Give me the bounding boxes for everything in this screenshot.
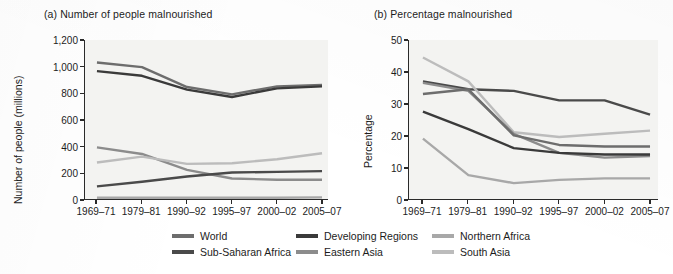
y-axis-tick-mark — [80, 93, 84, 94]
x-axis-tick-label: 1969–71 — [77, 206, 116, 217]
x-axis-tick-mark — [231, 200, 232, 204]
y-axis-tick-label: 600 — [44, 115, 78, 126]
x-axis-tick-label: 2000–02 — [257, 206, 296, 217]
y-axis-tick-label: 0 — [44, 195, 78, 206]
x-axis-tick-mark — [558, 200, 559, 204]
y-axis-tick-label: 1,200 — [44, 35, 78, 46]
x-axis-tick-mark — [467, 200, 468, 204]
y-axis-tick-label: 0 — [368, 195, 402, 206]
y-axis-tick-label: 40 — [368, 67, 402, 78]
legend-line-swatch-icon — [172, 234, 194, 237]
series-line-world — [97, 63, 322, 95]
y-axis-tick-mark — [80, 146, 84, 147]
legend-line-swatch-icon — [296, 250, 318, 253]
legend-label: South Asia — [460, 246, 510, 258]
panel-a-y-axis-label: Number of people (millions) — [12, 76, 24, 204]
panel-b-title: (b) Percentage malnourished — [374, 8, 512, 20]
y-axis-tick-label: 50 — [368, 35, 402, 46]
y-axis-tick-label: 10 — [368, 163, 402, 174]
x-axis-tick-label: 1990–92 — [167, 206, 206, 217]
x-axis-tick-label: 1990–92 — [494, 206, 533, 217]
legend-item-eastern-asia: Eastern Asia — [296, 246, 383, 258]
x-axis-tick-label: 1969–71 — [403, 206, 442, 217]
legend-item-developing-regions: Developing Regions — [296, 230, 418, 242]
legend-row-bottom: Sub-Saharan Africa Eastern Asia South As… — [0, 246, 673, 262]
series-line-northern-africa — [423, 139, 650, 184]
x-axis-tick-mark — [95, 200, 96, 204]
malnutrition-figure: (a) Number of people malnourished Number… — [0, 0, 673, 274]
x-axis-tick-label: 1979–81 — [122, 206, 161, 217]
legend-label: Developing Regions — [324, 230, 418, 242]
x-axis-tick-mark — [604, 200, 605, 204]
y-axis-tick-mark — [404, 199, 408, 200]
x-axis-tick-label: 2005–07 — [631, 206, 670, 217]
panel-a-plot-area — [84, 40, 328, 200]
figure-legend: World Developing Regions Northern Africa… — [0, 228, 673, 274]
y-axis-tick-mark — [80, 119, 84, 120]
x-axis-tick-mark — [276, 200, 277, 204]
legend-item-northern-africa: Northern Africa — [432, 230, 530, 242]
x-axis-tick-mark — [513, 200, 514, 204]
y-axis-tick-mark — [80, 173, 84, 174]
panel-b-plot-area — [408, 40, 658, 200]
legend-item-sub-saharan-africa: Sub-Saharan Africa — [172, 246, 291, 258]
x-axis-tick-mark — [186, 200, 187, 204]
y-axis-tick-mark — [80, 199, 84, 200]
y-axis-tick-label: 30 — [368, 99, 402, 110]
legend-item-south-asia: South Asia — [432, 246, 510, 258]
x-axis-tick-mark — [421, 200, 422, 204]
legend-label: World — [200, 230, 227, 242]
legend-label: Northern Africa — [460, 230, 530, 242]
y-axis-tick-label: 400 — [44, 141, 78, 152]
y-axis-tick-label: 20 — [368, 131, 402, 142]
x-axis-tick-mark — [321, 200, 322, 204]
x-axis-tick-mark — [649, 200, 650, 204]
series-line-sub-saharan-africa — [423, 81, 650, 114]
series-line-world — [423, 89, 650, 146]
legend-line-swatch-icon — [296, 234, 318, 237]
x-axis-tick-label: 1995–97 — [539, 206, 578, 217]
panel-a-series-lines — [85, 40, 328, 199]
chart-panel-a: (a) Number of people malnourished Number… — [0, 0, 336, 232]
y-axis-tick-label: 800 — [44, 88, 78, 99]
legend-row-top: World Developing Regions Northern Africa — [0, 230, 673, 246]
y-axis-tick-mark — [80, 66, 84, 67]
y-axis-tick-mark — [404, 39, 408, 40]
y-axis-tick-mark — [404, 167, 408, 168]
legend-line-swatch-icon — [432, 234, 454, 237]
y-axis-tick-mark — [404, 71, 408, 72]
y-axis-tick-label: 200 — [44, 168, 78, 179]
panel-a-title: (a) Number of people malnourished — [44, 8, 212, 20]
x-axis-tick-mark — [141, 200, 142, 204]
legend-label: Eastern Asia — [324, 246, 383, 258]
x-axis-tick-label: 1979–81 — [448, 206, 487, 217]
series-line-developing-regions — [97, 71, 322, 97]
legend-line-swatch-icon — [172, 250, 194, 253]
series-line-south-asia — [97, 153, 322, 164]
y-axis-tick-mark — [404, 103, 408, 104]
legend-item-world: World — [172, 230, 227, 242]
legend-line-swatch-icon — [432, 250, 454, 253]
chart-panel-b: (b) Percentage malnourished Percentage 0… — [336, 0, 673, 232]
panel-b-series-lines — [409, 40, 658, 199]
x-axis-tick-label: 1995–97 — [212, 206, 251, 217]
x-axis-tick-label: 2000–02 — [585, 206, 624, 217]
y-axis-tick-label: 1,000 — [44, 61, 78, 72]
y-axis-tick-mark — [404, 135, 408, 136]
legend-label: Sub-Saharan Africa — [200, 246, 291, 258]
y-axis-tick-mark — [80, 39, 84, 40]
